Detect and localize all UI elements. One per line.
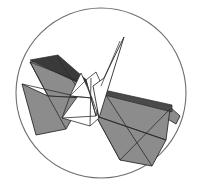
figure-root: Shaded origami paper crane with spread w…: [0, 0, 197, 193]
origami-crane-figure: Shaded origami paper crane with spread w…: [0, 0, 197, 193]
